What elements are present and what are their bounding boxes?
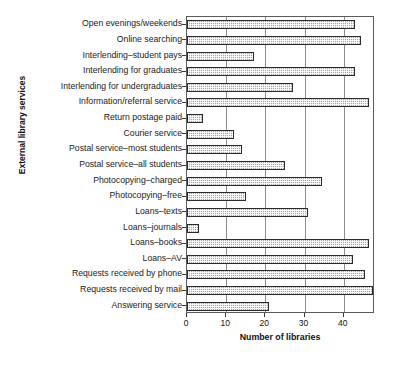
- bar: [187, 52, 254, 61]
- bar: [187, 224, 199, 233]
- x-axis-title: Number of libraries: [186, 332, 374, 342]
- x-axis-tick-label: 10: [210, 318, 240, 328]
- bar: [187, 130, 234, 139]
- y-axis-tick-label: Online searching: [18, 34, 182, 44]
- bar: [187, 145, 242, 154]
- y-axis-tick-label: Interlending–student pays: [18, 50, 182, 60]
- bar: [187, 177, 322, 186]
- bar: [187, 286, 373, 295]
- x-tick-mark: [343, 313, 344, 317]
- bar: [187, 98, 369, 107]
- y-tick-mark: [182, 243, 186, 244]
- x-tick-mark: [225, 313, 226, 317]
- x-axis-tick-label: 30: [289, 318, 319, 328]
- y-axis-tick-label: Open evenings/weekends: [18, 18, 182, 28]
- bar: [187, 20, 355, 29]
- y-axis-tick-label: Photocopying–charged: [18, 175, 182, 185]
- y-tick-mark: [182, 227, 186, 228]
- y-tick-mark: [182, 71, 186, 72]
- x-tick-mark: [264, 313, 265, 317]
- x-tick-mark: [186, 313, 187, 317]
- x-axis-tick-label: 0: [171, 318, 201, 328]
- bar: [187, 270, 365, 279]
- gridline-x: [344, 17, 345, 312]
- bar: [187, 255, 353, 264]
- y-tick-mark: [182, 39, 186, 40]
- bar: [187, 67, 355, 76]
- y-axis-tick-label: Interlending for graduates: [18, 65, 182, 75]
- y-axis-tick-label: Information/referral service: [18, 96, 182, 106]
- gridline-x: [305, 17, 306, 312]
- y-axis-tick-label: Loans–books: [18, 237, 182, 247]
- y-tick-mark: [182, 165, 186, 166]
- y-axis-tick-label: Loans–texts: [18, 206, 182, 216]
- bar: [187, 192, 246, 201]
- y-axis-tick-label: Postal service–most students: [18, 143, 182, 153]
- y-tick-mark: [182, 305, 186, 306]
- y-axis-tick-label: Return postage paid: [18, 112, 182, 122]
- y-tick-mark: [182, 211, 186, 212]
- y-axis-tick-label: Loans–journals: [18, 222, 182, 232]
- x-axis-tick-label: 20: [249, 318, 279, 328]
- bar: [187, 208, 308, 217]
- bar: [187, 83, 293, 92]
- x-axis-tick-label: 40: [328, 318, 358, 328]
- y-tick-mark: [182, 86, 186, 87]
- y-tick-mark: [182, 55, 186, 56]
- y-axis-tick-label: Answering service: [18, 300, 182, 310]
- y-tick-mark: [182, 102, 186, 103]
- y-axis-tick-label: Requests received by phone: [18, 268, 182, 278]
- y-tick-mark: [182, 196, 186, 197]
- bar: [187, 302, 269, 311]
- bar: [187, 36, 361, 45]
- y-tick-mark: [182, 24, 186, 25]
- y-axis-tick-label: Courier service: [18, 128, 182, 138]
- y-tick-mark: [182, 290, 186, 291]
- bar: [187, 239, 369, 248]
- x-tick-mark: [304, 313, 305, 317]
- y-tick-mark: [182, 118, 186, 119]
- y-axis-tick-labels: Open evenings/weekendsOnline searchingIn…: [18, 16, 182, 313]
- y-axis-tick-label: Loans–AV: [18, 253, 182, 263]
- y-tick-mark: [182, 274, 186, 275]
- y-axis-tick-label: Postal service–all students: [18, 159, 182, 169]
- y-tick-mark: [182, 133, 186, 134]
- bar: [187, 114, 203, 123]
- y-axis-tick-label: Requests received by mail: [18, 284, 182, 294]
- chart-figure: External library services Open evenings/…: [0, 0, 396, 366]
- bar: [187, 161, 285, 170]
- plot-area: [186, 16, 374, 313]
- y-tick-mark: [182, 258, 186, 259]
- y-axis-tick-label: Photocopying–free: [18, 190, 182, 200]
- y-tick-mark: [182, 180, 186, 181]
- y-axis-tick-label: Interlending for undergraduates: [18, 81, 182, 91]
- y-tick-mark: [182, 149, 186, 150]
